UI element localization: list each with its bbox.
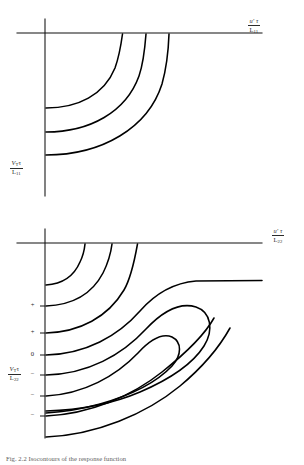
y-axis-label-top: VTτ L11	[10, 160, 23, 176]
x-axis-label-top-denominator: L11	[248, 25, 260, 34]
chart-panel-top: u' τ L11 VTτ L11	[0, 0, 304, 200]
y-axis-tick-label-4: −	[28, 371, 37, 378]
x-axis-label-top: u' τ L11	[248, 18, 260, 34]
y-axis-label-top-numerator: VTτ	[10, 160, 23, 168]
y-axis-label-top-numerator-tau: τ	[19, 159, 22, 166]
x-axis-label-top-denominator-sub: 11	[254, 29, 259, 34]
x-axis-label-bottom-numerator: u' τ	[272, 228, 284, 235]
y-axis-label-top-denominator: L11	[10, 168, 23, 177]
x-axis-label-top-numerator: u' τ	[248, 18, 260, 25]
y-axis-label-bottom-fraction: VTτ L22	[8, 366, 21, 382]
contour-line-bottom-4	[46, 281, 262, 356]
x-axis-label-bottom-denominator: L22	[272, 235, 284, 244]
y-axis-label-bottom-denominator: L22	[8, 374, 21, 383]
y-axis-tick-label-1: +	[28, 302, 37, 309]
contour-line-bottom-7	[46, 318, 214, 416]
chart-panel-bottom: + + 0 − − − u' τ L22 VTτ L22	[0, 210, 304, 450]
y-axis-label-bottom-numerator: VTτ	[8, 366, 21, 374]
figure-root: u' τ L11 VTτ L11	[0, 0, 304, 465]
contour-line-bottom-8	[46, 328, 230, 437]
y-axis-label-bottom-numerator-tau: τ	[17, 365, 20, 372]
contour-line-bottom-2	[46, 244, 112, 306]
contour-line-top-3	[46, 34, 169, 155]
y-axis-tick-label-3: 0	[28, 351, 37, 358]
y-axis-tick-label-2: +	[28, 329, 37, 336]
y-axis-tick-label-5: −	[28, 392, 37, 399]
figure-caption: Fig. 2.2 Isocontours of the response fun…	[6, 455, 126, 462]
contour-line-top-2	[46, 34, 146, 132]
y-axis-tick-label-6: −	[28, 412, 37, 419]
x-axis-label-bottom-fraction: u' τ L22	[272, 228, 284, 244]
contour-line-bottom-1	[46, 244, 85, 285]
y-axis-label-bottom-denominator-sub: 22	[14, 377, 19, 382]
x-axis-label-bottom: u' τ L22	[272, 228, 284, 244]
y-axis-label-top-fraction: VTτ L11	[10, 160, 23, 176]
x-axis-label-top-fraction: u' τ L11	[248, 18, 260, 34]
y-axis-label-top-denominator-sub: 11	[16, 171, 21, 176]
x-axis-label-bottom-denominator-sub: 22	[278, 239, 283, 244]
contour-line-top-1	[46, 34, 123, 108]
y-axis-label-bottom: VTτ L22	[8, 366, 21, 382]
plot-canvas-bottom	[0, 210, 304, 450]
